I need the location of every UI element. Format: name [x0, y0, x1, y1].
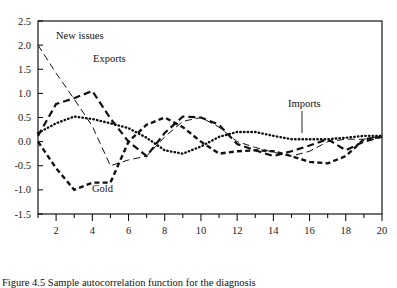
y-tick-label: 2.0: [18, 40, 31, 51]
x-tick-label: 10: [196, 225, 207, 236]
y-tick-label: 0.5: [18, 112, 31, 123]
y-tick-label: 1.5: [18, 64, 31, 75]
figure-container: 2.52.01.51.00.50.0-0.5-1.0-1.5 246810121…: [0, 0, 397, 288]
x-tick-label: 8: [162, 225, 167, 236]
y-tick-label: -0.5: [14, 160, 31, 171]
y-tick-label: 2.5: [18, 16, 31, 27]
autocorrelation-chart: 2.52.01.51.00.50.0-0.5-1.0-1.5 246810121…: [0, 0, 397, 288]
x-axis: 2468101214161820: [38, 214, 387, 236]
y-tick-label: -1.0: [14, 184, 31, 195]
y-tick-label: 0.0: [18, 136, 31, 147]
annotation-group: New issuesExportsGoldImports: [56, 30, 321, 194]
x-tick-label: 14: [268, 225, 279, 236]
x-tick-label: 6: [126, 225, 131, 236]
x-tick-label: 18: [341, 225, 352, 236]
x-tick-label: 4: [90, 225, 96, 236]
series-line-gold: [38, 118, 382, 190]
y-tick-label: -1.5: [14, 209, 31, 220]
x-tick-label: 2: [53, 225, 58, 236]
x-tick-label: 12: [232, 225, 243, 236]
figure-caption: Figure 4.5 Sample autocorrelation functi…: [2, 277, 256, 288]
plot-label-new-issues: New issues: [56, 30, 104, 41]
plot-label-imports: Imports: [288, 98, 321, 109]
plot-label-gold: Gold: [92, 183, 114, 194]
x-tick-label: 20: [377, 225, 388, 236]
series-group: [38, 45, 382, 190]
plot-label-exports: Exports: [93, 53, 126, 64]
x-tick-label: 16: [304, 225, 315, 236]
y-tick-label: 1.0: [18, 88, 31, 99]
